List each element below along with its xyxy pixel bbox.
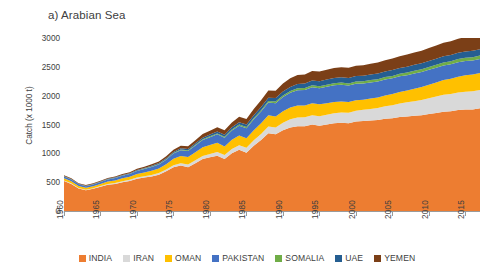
y-tick-label: 500: [20, 178, 60, 187]
figure: a) Arabian Sea Catch (x 1000 t) 05001000…: [0, 0, 494, 277]
legend-item-yemen[interactable]: YEMEN: [374, 253, 415, 263]
y-axis-ticks: 050010001500200025003000: [18, 38, 60, 211]
legend-label: PAKISTAN: [222, 253, 264, 263]
legend-item-pakistan[interactable]: PAKISTAN: [212, 253, 264, 263]
y-tick-label: 1000: [20, 149, 60, 158]
x-tick-label: 2000: [347, 200, 356, 219]
legend-swatch-icon: [275, 255, 282, 262]
x-tick-mark: [246, 211, 247, 216]
page-title: a) Arabian Sea: [48, 9, 125, 21]
legend-label: INDIA: [89, 253, 112, 263]
x-tick-mark: [173, 211, 174, 216]
legend-swatch-icon: [79, 255, 86, 262]
x-tick-label: 2010: [420, 200, 429, 219]
x-tick-label: 1980: [201, 200, 210, 219]
x-tick-label: 1990: [274, 200, 283, 219]
stacked-area-plot: [64, 38, 480, 211]
x-tick-mark: [100, 211, 101, 216]
y-tick-label: 3000: [20, 34, 60, 43]
x-tick-label: 2005: [384, 200, 393, 219]
legend-label: IRAN: [133, 253, 154, 263]
legend-swatch-icon: [335, 255, 342, 262]
x-tick-label: 1975: [165, 200, 174, 219]
legend-label: YEMEN: [384, 253, 415, 263]
y-tick-label: 2500: [20, 62, 60, 71]
legend-item-somalia[interactable]: SOMALIA: [275, 253, 324, 263]
x-tick-mark: [319, 211, 320, 216]
x-tick-mark: [465, 211, 466, 216]
legend-swatch-icon: [165, 255, 172, 262]
y-tick-label: 2000: [20, 91, 60, 100]
x-tick-label: 1970: [128, 200, 137, 219]
y-tick-label: 0: [20, 207, 60, 216]
legend-item-uae[interactable]: UAE: [335, 253, 363, 263]
x-axis-ticks: 1960196519701975198019851990199520002005…: [64, 211, 480, 253]
legend-label: OMAN: [175, 253, 201, 263]
y-tick-label: 1500: [20, 120, 60, 129]
plot-svg: [64, 38, 480, 211]
x-tick-label: 1985: [238, 200, 247, 219]
legend-swatch-icon: [374, 255, 381, 262]
chart-legend: INDIAIRANOMANPAKISTANSOMALIAUAEYEMEN: [0, 253, 494, 263]
legend-label: UAE: [345, 253, 363, 263]
legend-item-india[interactable]: INDIA: [79, 253, 112, 263]
legend-label: SOMALIA: [285, 253, 324, 263]
legend-swatch-icon: [212, 255, 219, 262]
legend-item-oman[interactable]: OMAN: [165, 253, 201, 263]
legend-item-iran[interactable]: IRAN: [123, 253, 154, 263]
x-tick-label: 1965: [92, 200, 101, 219]
x-tick-label: 1995: [311, 200, 320, 219]
x-tick-mark: [392, 211, 393, 216]
legend-swatch-icon: [123, 255, 130, 262]
x-tick-label: 2015: [457, 200, 466, 219]
x-tick-label: 1960: [56, 200, 65, 219]
